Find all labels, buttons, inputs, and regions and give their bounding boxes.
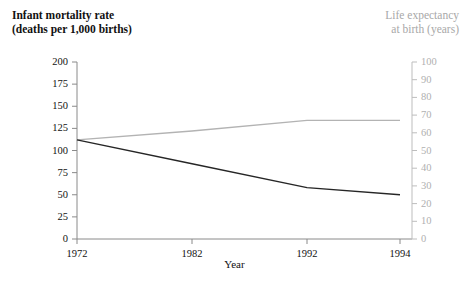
chart-container: Infant mortality rate(deaths per 1,000 b… [0, 0, 469, 287]
plot-area [0, 0, 469, 287]
left-tick-label: 200 [34, 57, 68, 68]
left-tick-label: 75 [34, 168, 68, 179]
series-line-life-expectancy [77, 120, 400, 139]
right-tick-label: 50 [421, 146, 455, 157]
right-tick-label: 40 [421, 163, 455, 174]
left-tick-label: 25 [34, 212, 68, 223]
left-tick-label: 175 [34, 79, 68, 90]
x-axis-ticks [77, 239, 400, 244]
right-tick-label: 60 [421, 128, 455, 139]
right-tick-label: 70 [421, 110, 455, 121]
left-tick-label: 125 [34, 123, 68, 134]
left-tick-label: 100 [34, 146, 68, 157]
x-axis-label: Year [0, 258, 469, 270]
left-tick-label: 150 [34, 101, 68, 112]
right-tick-label: 100 [421, 57, 455, 68]
left-tick-label: 50 [34, 190, 68, 201]
right-tick-label: 80 [421, 92, 455, 103]
left-tick-label: 0 [34, 234, 68, 245]
right-tick-label: 30 [421, 181, 455, 192]
series-line-infant-mortality [77, 140, 400, 195]
right-tick-label: 20 [421, 199, 455, 210]
left-axis-ticks [72, 62, 77, 239]
right-axis-ticks [412, 62, 417, 239]
right-tick-label: 0 [421, 234, 455, 245]
right-tick-label: 90 [421, 75, 455, 86]
right-tick-label: 10 [421, 216, 455, 227]
